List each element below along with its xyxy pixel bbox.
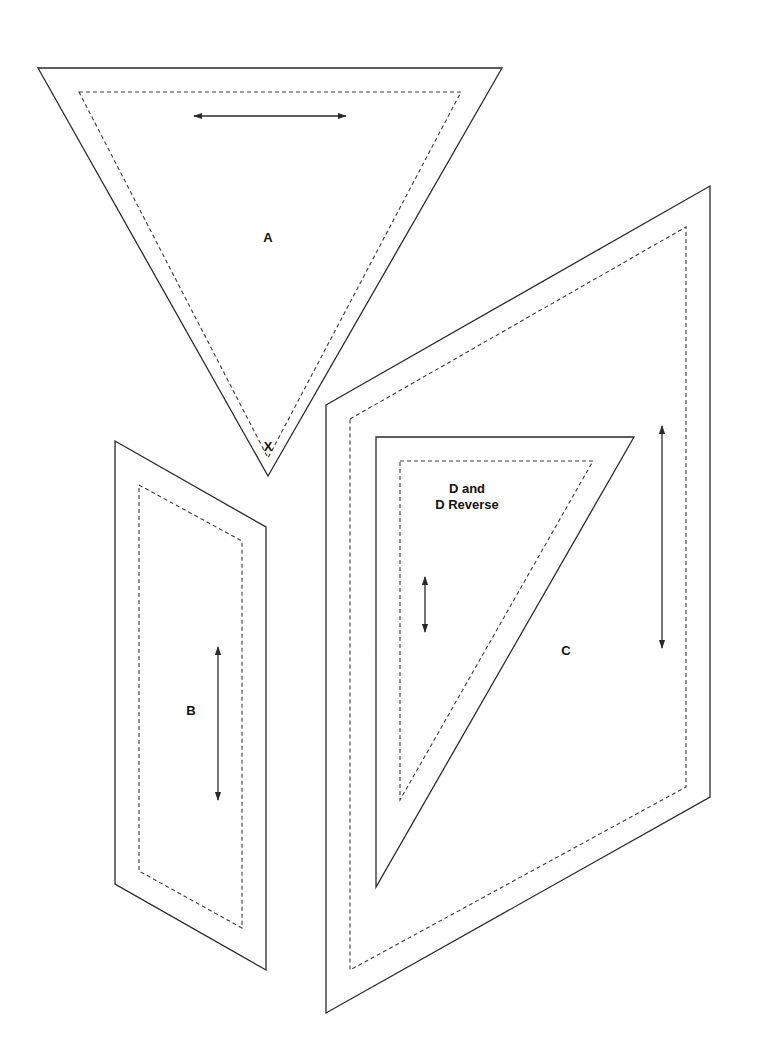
piece-a: A X	[38, 68, 502, 476]
piece-b-label: B	[186, 703, 195, 718]
piece-d: D and D Reverse	[376, 437, 634, 887]
piece-d-label-line1: D and	[449, 481, 485, 496]
piece-a-cut-line	[38, 68, 502, 476]
piece-c-label: C	[561, 643, 571, 658]
pattern-sheet: A X B C D and D Reverse	[0, 0, 762, 1043]
piece-c-cut-line	[326, 186, 710, 1013]
piece-a-seam-line	[79, 92, 461, 458]
piece-c: C	[326, 186, 710, 1013]
piece-a-label: A	[263, 230, 273, 245]
piece-b: B	[115, 441, 266, 970]
piece-d-label-line2: D Reverse	[435, 497, 499, 512]
piece-a-point-label: X	[264, 439, 273, 454]
piece-d-cut-line	[376, 437, 634, 887]
